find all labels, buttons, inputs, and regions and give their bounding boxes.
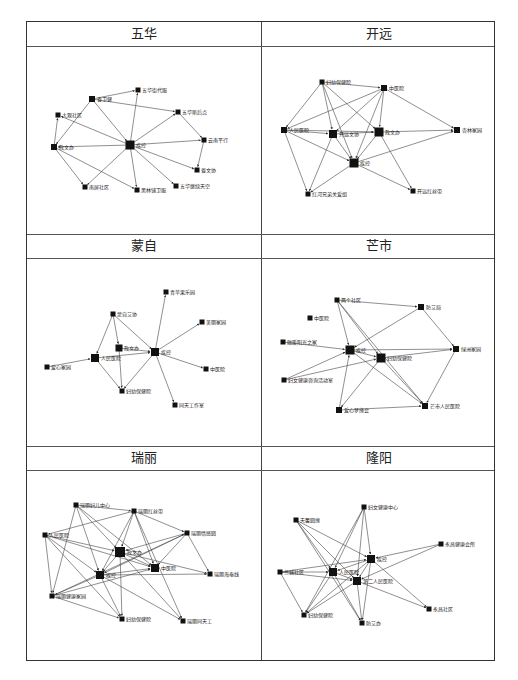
node-label: 中医院 xyxy=(210,366,225,373)
node-label: 五华继续天空 xyxy=(180,183,210,190)
graph-node xyxy=(136,88,141,93)
graph-edge xyxy=(187,533,208,571)
node-label: 人民医院 xyxy=(339,569,359,576)
graph-edge xyxy=(339,355,349,410)
graph-node xyxy=(204,367,209,372)
node-label: 大观社区 xyxy=(62,112,82,119)
graph-edge xyxy=(122,511,134,546)
graph-node xyxy=(132,509,137,514)
graph-node xyxy=(135,188,140,193)
graph-edge xyxy=(178,112,202,137)
graph-edge xyxy=(134,511,153,563)
graph-edge xyxy=(88,145,130,185)
graph-edge xyxy=(307,581,357,613)
graph-edge xyxy=(119,348,122,388)
graph-edge xyxy=(130,93,137,145)
graph-node xyxy=(282,378,287,383)
network-graphs: 疾控省卫健五华街代服大观社区五华斯后点云南平行省文协政文办南屏社区黑林铺卫服五华… xyxy=(0,0,518,680)
graph-node xyxy=(176,110,181,115)
graph-node xyxy=(281,340,286,345)
graph-edge xyxy=(134,511,184,532)
graph-node xyxy=(43,533,48,538)
graph-node xyxy=(278,570,283,575)
graph-edge xyxy=(54,147,134,188)
graph-edge xyxy=(198,140,204,167)
graph-node xyxy=(195,168,200,173)
graph-edge xyxy=(76,505,98,570)
network-graph: 妇女健康中心天馨圆缘永昌健康会所疾控人民医院兰城社区第二人民医院永昌社区妇幼保健… xyxy=(278,504,476,627)
node-label: 青苹果乐园 xyxy=(170,289,195,296)
graph-node xyxy=(116,345,123,352)
graph-edge xyxy=(311,163,354,192)
graph-node xyxy=(91,354,99,362)
network-graph: 疾控省卫健五华街代服大观社区五华斯后点云南平行省文协政文办南屏社区黑林铺卫服五华… xyxy=(51,87,228,194)
graph-node xyxy=(362,505,367,510)
graph-node xyxy=(367,555,375,563)
graph-node xyxy=(111,312,116,317)
graph-edge xyxy=(355,307,421,347)
graph-node xyxy=(335,298,340,303)
node-label: 开远红丝带 xyxy=(417,188,442,195)
graph-node xyxy=(360,621,365,626)
node-label: 天馨圆缘 xyxy=(300,517,320,524)
graph-node xyxy=(320,80,325,85)
graph-node xyxy=(120,617,125,622)
graph-edge xyxy=(296,520,367,557)
graph-edge xyxy=(52,596,119,618)
graph-edge xyxy=(45,535,52,593)
graph-edge xyxy=(54,147,83,184)
graph-edge xyxy=(155,295,165,352)
graph-node xyxy=(208,572,213,577)
graph-edge xyxy=(354,163,410,189)
node-label: 妇幼保健院 xyxy=(308,612,333,619)
graph-node xyxy=(74,503,79,508)
graph-edge xyxy=(421,307,453,346)
node-label: 蒙自艾协 xyxy=(117,311,137,318)
node-label: 政文办 xyxy=(385,129,400,136)
node-label: 爱心梦缘会 xyxy=(344,407,369,414)
graph-node xyxy=(302,613,307,618)
node-label: 中医院 xyxy=(161,565,176,572)
node-label: 杏林家园 xyxy=(462,127,482,134)
node-label: 疾控 xyxy=(377,556,387,563)
graph-node xyxy=(126,141,135,150)
node-label: 黑林铺卫服 xyxy=(141,187,166,194)
graph-node xyxy=(377,354,386,363)
graph-node xyxy=(202,138,207,143)
node-label: 绿洲家园 xyxy=(461,346,481,353)
node-label: 五华斯后点 xyxy=(182,109,207,116)
graph-edge xyxy=(384,88,454,128)
graph-edge xyxy=(284,352,345,380)
node-label: 人民医院 xyxy=(101,355,121,362)
graph-edge xyxy=(97,314,113,353)
graph-edge xyxy=(357,581,362,620)
graph-edge xyxy=(95,358,120,388)
node-label: 爱心家园 xyxy=(51,364,71,371)
graph-node xyxy=(350,159,359,168)
node-label: 红河兄弟关爱组 xyxy=(312,191,347,198)
graph-node xyxy=(336,407,342,413)
node-label: 瑞丽情感圆 xyxy=(191,530,216,537)
graph-edge xyxy=(155,324,199,352)
node-label: 政文办 xyxy=(127,549,142,556)
node-label: 第二人民医院 xyxy=(363,578,393,585)
graph-node xyxy=(89,96,95,102)
graph-node xyxy=(346,346,355,355)
node-label: 妇幼保健院 xyxy=(387,355,412,362)
graph-edge xyxy=(337,88,384,131)
graph-node xyxy=(281,127,287,133)
network-graph: 两个社区防艾局中医院融暖阳光之家疾控妇幼保健院绿洲家园妇女健康咨询活动室爱心梦缘… xyxy=(281,297,481,414)
graph-edge xyxy=(61,116,130,145)
node-label: 瑞丽妇儿中心 xyxy=(80,502,110,509)
node-label: 省卫健 xyxy=(97,96,112,103)
graph-node xyxy=(181,619,186,624)
graph-node xyxy=(50,594,55,599)
graph-edge xyxy=(130,114,175,145)
network-graph: 妇幼保健院中医院人民医院开远文协政文办杏林家园疾控红河兄弟关爱组开远红丝带 xyxy=(281,79,482,198)
graph-node xyxy=(120,389,125,394)
node-label: 妇幼保健院 xyxy=(126,388,151,395)
graph-node xyxy=(411,189,416,194)
graph-node xyxy=(45,365,50,370)
node-label: 五华街代服 xyxy=(142,87,167,94)
graph-edge xyxy=(100,575,120,616)
